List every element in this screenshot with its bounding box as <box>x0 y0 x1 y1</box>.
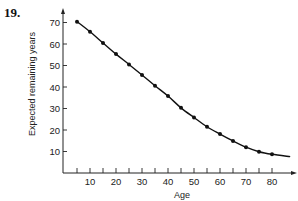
x-axis-label: Age <box>174 190 190 200</box>
line-chart: 19. 10203040506070 Expected remaining ye… <box>0 0 298 201</box>
x-axis-arrow-icon <box>291 171 297 175</box>
x-tick-label: 20 <box>111 176 122 187</box>
data-point <box>153 84 157 88</box>
data-point <box>231 139 235 143</box>
x-tick-label: 70 <box>241 176 252 187</box>
data-point <box>166 94 170 98</box>
data-point <box>101 41 105 45</box>
x-tick-label: 30 <box>137 176 148 187</box>
x-tick-label: 10 <box>85 176 96 187</box>
y-axis-arrow-icon <box>61 8 65 14</box>
data-point <box>114 52 118 56</box>
x-tick-label: 40 <box>163 176 174 187</box>
data-point <box>244 145 248 149</box>
data-point <box>257 150 261 154</box>
data-point <box>218 132 222 136</box>
data-point <box>88 30 92 34</box>
y-tick-label: 30 <box>49 103 60 114</box>
y-tick-label: 20 <box>49 125 60 136</box>
data-series <box>75 20 290 157</box>
y-tick-label: 60 <box>49 39 60 50</box>
problem-number: 19. <box>4 5 20 20</box>
y-tick-label: 50 <box>49 60 60 71</box>
data-point <box>205 125 209 129</box>
x-tick-label: 80 <box>267 176 278 187</box>
x-axis: 1020304050607080 Age <box>63 168 297 200</box>
data-point <box>127 62 131 66</box>
y-axis-ticks: 10203040506070 <box>49 17 67 157</box>
y-tick-label: 40 <box>49 82 60 93</box>
data-point <box>192 116 196 120</box>
data-point <box>75 20 79 24</box>
series-line <box>77 22 290 157</box>
data-point <box>179 106 183 110</box>
y-axis: 10203040506070 Expected remaining years <box>27 8 67 173</box>
x-axis-ticks: 1020304050607080 <box>77 168 277 187</box>
data-point <box>140 73 144 77</box>
y-tick-label: 70 <box>49 17 60 28</box>
x-tick-label: 60 <box>215 176 226 187</box>
data-point <box>270 152 274 156</box>
y-axis-label: Expected remaining years <box>27 31 37 136</box>
y-tick-label: 10 <box>49 146 60 157</box>
x-tick-label: 50 <box>189 176 200 187</box>
